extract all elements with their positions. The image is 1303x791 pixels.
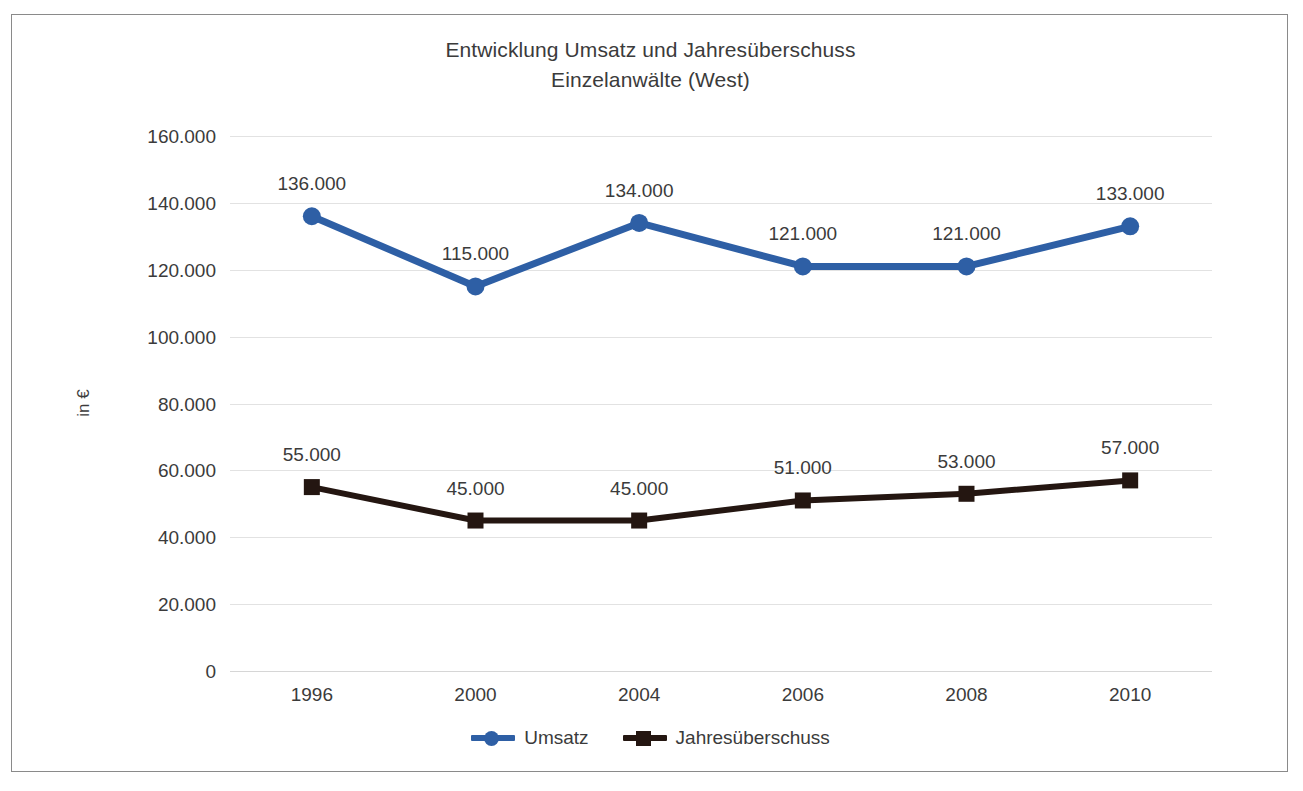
data-point-marker: [303, 207, 321, 225]
legend-label: Jahresüberschuss: [676, 727, 830, 749]
data-point-label: 121.000: [887, 224, 1047, 243]
legend: UmsatzJahresüberschuss: [12, 727, 1289, 749]
data-point-label: 45.000: [396, 479, 556, 498]
data-point-marker: [304, 479, 320, 495]
y-tick-label: 100.000: [96, 328, 216, 347]
chart-frame: Entwicklung Umsatz und Jahresüberschuss …: [11, 14, 1288, 772]
data-point-marker: [794, 257, 812, 275]
data-point-label: 133.000: [1050, 184, 1210, 203]
y-tick-label: 20.000: [96, 595, 216, 614]
data-point-marker: [631, 513, 647, 529]
data-point-marker: [958, 257, 976, 275]
legend-item-umsatz[interactable]: Umsatz: [471, 727, 588, 749]
chart-title: Entwicklung Umsatz und Jahresüberschuss …: [12, 35, 1289, 95]
y-tick-label: 80.000: [96, 395, 216, 414]
data-point-label: 136.000: [232, 174, 392, 193]
y-tick-label: 40.000: [96, 528, 216, 547]
y-tick-label: 160.000: [96, 127, 216, 146]
legend-item-jahresüberschuss[interactable]: Jahresüberschuss: [623, 727, 830, 749]
legend-marker-swatch: [484, 731, 499, 746]
data-point-label: 51.000: [723, 458, 883, 477]
series-layer: [230, 136, 1212, 671]
y-tick-label: 140.000: [96, 194, 216, 213]
legend-key-circle-icon: [471, 729, 515, 747]
data-point-marker: [1121, 217, 1139, 235]
data-point-label: 45.000: [559, 479, 719, 498]
x-tick-label: 2008: [897, 683, 1037, 707]
data-point-label: 53.000: [887, 452, 1047, 471]
x-tick-label: 2006: [733, 683, 873, 707]
y-tick-label: 120.000: [96, 261, 216, 280]
plot-area: 136.000115.000134.000121.000121.000133.0…: [230, 136, 1212, 671]
x-tick-label: 1996: [242, 683, 382, 707]
chart-screenshot: Entwicklung Umsatz und Jahresüberschuss …: [0, 0, 1303, 791]
legend-label: Umsatz: [524, 727, 588, 749]
gridline: [230, 671, 1212, 672]
data-point-marker: [959, 486, 975, 502]
chart-title-line2: Einzelanwälte (West): [12, 65, 1289, 95]
chart-title-line1: Entwicklung Umsatz und Jahresüberschuss: [445, 38, 855, 61]
data-point-label: 121.000: [723, 224, 883, 243]
x-tick-label: 2000: [406, 683, 546, 707]
data-point-label: 55.000: [232, 445, 392, 464]
data-point-label: 134.000: [559, 181, 719, 200]
data-point-marker: [630, 214, 648, 232]
data-point-marker: [795, 492, 811, 508]
data-point-label: 115.000: [396, 244, 556, 263]
data-point-label: 57.000: [1050, 438, 1210, 457]
y-axis-tick-labels: 160.000140.000120.000100.00080.00060.000…: [96, 136, 216, 671]
y-axis-title: in €: [74, 373, 94, 433]
data-point-marker: [468, 513, 484, 529]
data-point-marker: [467, 277, 485, 295]
x-axis-tick-labels: 199620002004200620082010: [230, 683, 1212, 713]
legend-marker-swatch: [636, 731, 651, 746]
y-tick-label: 60.000: [96, 461, 216, 480]
data-point-marker: [1122, 472, 1138, 488]
legend-key-square-icon: [623, 729, 667, 747]
x-tick-label: 2010: [1060, 683, 1200, 707]
x-tick-label: 2004: [569, 683, 709, 707]
y-tick-label: 0: [96, 662, 216, 681]
